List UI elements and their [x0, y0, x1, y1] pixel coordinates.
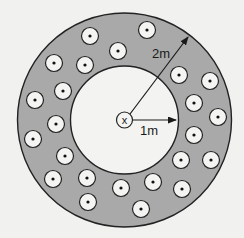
dot-icon: [119, 186, 122, 189]
dot-icon: [31, 137, 34, 140]
outer-radius-arrow-label: 2m: [152, 46, 170, 61]
dot-icon: [54, 122, 57, 125]
dot-icon: [145, 28, 148, 31]
dot-icon: [179, 158, 182, 161]
dot-icon: [83, 63, 86, 66]
dot-icon: [63, 154, 66, 157]
wire-out-of-page: [186, 127, 203, 144]
wire-out-of-page: [202, 73, 219, 90]
dot-icon: [192, 133, 195, 136]
wire-out-of-page: [57, 148, 74, 165]
dot-icon: [116, 49, 119, 52]
wire-out-of-page: [174, 181, 191, 198]
wire-out-of-page: [55, 83, 72, 100]
wire-out-of-page: [171, 67, 188, 84]
dot-icon: [86, 200, 89, 203]
wire-out-of-page: [45, 171, 62, 188]
wire-out-of-page: [48, 116, 65, 133]
dot-icon: [216, 115, 219, 118]
center-wire-into-page: x: [117, 112, 133, 128]
toroid-diagram: 2m1m x: [0, 0, 244, 238]
wire-out-of-page: [77, 57, 94, 74]
wire-out-of-page: [145, 174, 162, 191]
wire-out-of-page: [173, 152, 190, 169]
dot-icon: [180, 187, 183, 190]
dot-icon: [61, 89, 64, 92]
wire-out-of-page: [27, 92, 44, 109]
wire-out-of-page: [79, 170, 96, 187]
dot-icon: [88, 34, 91, 37]
dot-icon: [139, 207, 142, 210]
dot-icon: [33, 98, 36, 101]
wire-out-of-page: [25, 131, 42, 148]
wire-out-of-page: [133, 201, 150, 218]
wire-out-of-page: [82, 28, 99, 45]
wire-out-of-page: [80, 194, 97, 211]
wire-out-of-page: [110, 43, 127, 60]
dot-icon: [208, 79, 211, 82]
wire-out-of-page: [203, 152, 220, 169]
dot-icon: [177, 73, 180, 76]
center-wire-symbol: x: [122, 114, 128, 126]
dot-icon: [209, 158, 212, 161]
dot-icon: [192, 101, 195, 104]
dot-icon: [51, 177, 54, 180]
wire-out-of-page: [113, 180, 130, 197]
wire-out-of-page: [46, 55, 63, 72]
dot-icon: [151, 180, 154, 183]
wire-out-of-page: [186, 95, 203, 112]
wire-out-of-page: [139, 22, 156, 39]
dot-icon: [52, 61, 55, 64]
inner-radius-arrow-label: 1m: [140, 123, 158, 138]
wire-out-of-page: [210, 109, 227, 126]
dot-icon: [85, 176, 88, 179]
